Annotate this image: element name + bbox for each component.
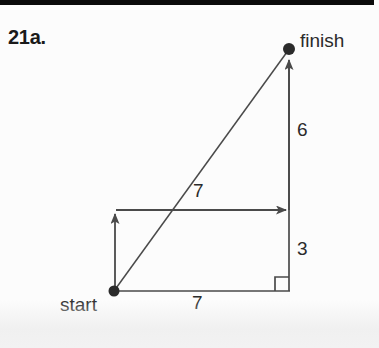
vector-diagram: [0, 0, 379, 348]
right-angle-square-icon: [275, 277, 289, 291]
length-label-seven-base: 7: [192, 292, 203, 314]
scanned-page: 21a. finish start 6 3 7 7: [0, 0, 379, 348]
length-label-three: 3: [297, 238, 308, 260]
length-label-seven-diagonal: 7: [193, 180, 204, 202]
finish-point-label: finish: [300, 30, 344, 52]
resultant-diagonal-arrow: [114, 52, 287, 291]
start-point-dot: [109, 286, 120, 297]
length-label-six: 6: [297, 119, 308, 141]
start-point-label: start: [60, 294, 97, 316]
finish-point-dot: [283, 43, 295, 55]
